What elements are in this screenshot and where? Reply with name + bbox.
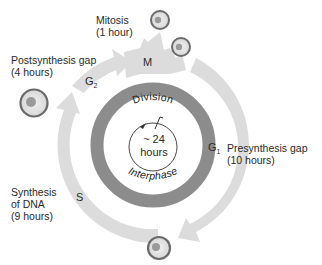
cell-icon-g2 xyxy=(21,90,48,117)
postsynthesis-name: Postsynthesis gap xyxy=(11,54,96,66)
presynthesis-name: Presynthesis gap xyxy=(227,142,308,154)
phase-g1-label: G1 xyxy=(208,141,220,155)
synthesis-duration: (9 hours) xyxy=(11,210,57,222)
cell-icon-g1 xyxy=(148,237,170,259)
phase-m-label: M xyxy=(143,56,152,68)
cycle-duration-unit: hours xyxy=(133,146,175,159)
phase-g1-subscript: 1 xyxy=(217,148,221,155)
mitosis-duration: (1 hour) xyxy=(96,26,133,38)
cycle-duration-value: ~ 24 xyxy=(133,133,175,146)
mitosis-label: Mitosis (1 hour) xyxy=(96,14,133,38)
synthesis-name-line2: of DNA xyxy=(11,198,57,210)
cell-icon-mitosis-2 xyxy=(172,38,190,56)
postsynthesis-duration: (4 hours) xyxy=(11,66,96,78)
phase-s-label: S xyxy=(76,191,83,203)
clock-tick-cap xyxy=(160,117,163,118)
svg-text:Interphase: Interphase xyxy=(127,164,179,181)
phase-g1-letter: G xyxy=(208,141,217,153)
interphase-label: Interphase xyxy=(127,164,179,181)
phase-g2-subscript: 2 xyxy=(94,82,98,89)
synthesis-name-line1: Synthesis xyxy=(11,186,57,198)
postsynthesis-label: Postsynthesis gap (4 hours) xyxy=(11,54,96,78)
presynthesis-duration: (10 hours) xyxy=(227,154,308,166)
cell-icon-mitosis-1 xyxy=(151,11,169,29)
mitosis-name: Mitosis xyxy=(96,14,133,26)
presynthesis-label: Presynthesis gap (10 hours) xyxy=(227,142,308,166)
synthesis-label: Synthesis of DNA (9 hours) xyxy=(11,186,57,222)
cycle-duration: ~ 24 hours xyxy=(133,133,175,159)
